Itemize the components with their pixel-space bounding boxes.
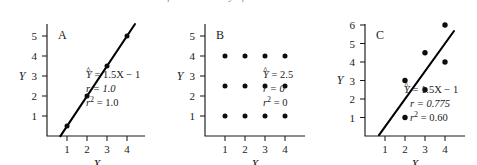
data-point <box>223 114 228 119</box>
panel-b-xtick-2: 2 <box>242 143 248 155</box>
data-point <box>223 54 228 59</box>
panel-a-x-axis-title: X <box>92 157 101 165</box>
panel-a: 1 2 3 4 5 1 2 3 4 Y X A <box>0 8 158 165</box>
panel-a-ytick-3: 3 <box>32 70 38 82</box>
panel-c-xtick-2: 2 <box>402 143 408 155</box>
panel-b-ytick-5: 5 <box>190 30 196 42</box>
panel-a-ytick-5: 5 <box>32 30 38 42</box>
panel-c: 1 2 3 4 5 6 1 2 3 4 Y X C <box>318 8 477 165</box>
data-point <box>125 34 130 39</box>
panel-a-letter: A <box>58 28 67 42</box>
data-point <box>402 115 407 120</box>
panel-c-xtick-1: 1 <box>382 143 388 155</box>
panel-b-r2-rhs: = 0 <box>271 97 287 108</box>
panel-b-ytick-2: 2 <box>190 90 196 102</box>
panel-c-y-axis-title: Y <box>337 73 345 87</box>
panel-a-ytick-1: 1 <box>32 110 38 122</box>
panel-b-equation-rhs: = 2.5 <box>269 69 293 80</box>
data-point <box>263 114 268 119</box>
panel-b-hat-accent: ^ <box>263 65 268 76</box>
panel-c-r2-value: r2 = 0.60 <box>410 110 448 123</box>
data-point <box>422 50 427 55</box>
panel-a-hat-accent: ^ <box>86 65 91 76</box>
panel-c-xtick-3: 3 <box>422 143 428 155</box>
data-point <box>243 114 248 119</box>
panel-a-regression-line <box>60 24 135 136</box>
panel-a-equation: Y = 1.5X − 1 <box>86 69 140 80</box>
panel-b-ytick-3: 3 <box>190 70 196 82</box>
panel-c-y-ticks <box>360 25 365 118</box>
panel-c-xtick-4: 4 <box>442 143 448 155</box>
regression-figure: 1 2 3 4 5 1 2 3 4 Y X A <box>0 0 477 165</box>
panel-c-ytick-5: 5 <box>350 38 356 50</box>
panel-c-ytick-2: 2 <box>350 93 356 105</box>
panel-b: 1 2 3 4 5 1 2 3 4 Y X B <box>158 8 318 165</box>
panel-b-plot: 1 2 3 4 5 1 2 3 4 Y X B <box>158 8 318 165</box>
panel-b-letter: B <box>216 28 224 42</box>
panel-a-ytick-2: 2 <box>32 90 38 102</box>
panel-b-x-ticks <box>225 136 285 141</box>
panel-c-plot: 1 2 3 4 5 6 1 2 3 4 Y X C <box>318 8 477 165</box>
panel-a-y-axis-title: Y <box>19 69 27 83</box>
panel-a-r-value: r = 1.0 <box>86 83 116 94</box>
panel-a-annotation: Y = 1.5X − 1 ^ r = 1.0 r2 = 1.0 <box>86 65 140 108</box>
panel-a-ytick-4: 4 <box>32 50 38 62</box>
panel-c-equation: Y = 1.5X − 1 <box>404 84 458 95</box>
panel-b-y-ticks <box>200 36 205 116</box>
panel-c-ytick-4: 4 <box>350 56 356 68</box>
data-point <box>263 54 268 59</box>
panel-a-r2-rhs: = 1.0 <box>94 97 118 108</box>
panel-b-y-axis-title: Y <box>177 69 185 83</box>
panel-a-r2-value: r2 = 1.0 <box>86 95 118 108</box>
panel-c-x-ticks <box>385 136 445 141</box>
data-point <box>283 54 288 59</box>
panel-b-xtick-3: 3 <box>262 143 268 155</box>
panel-c-letter: C <box>376 28 384 42</box>
data-point <box>65 124 70 129</box>
panel-b-r2-value: r2 = 0 <box>263 95 288 108</box>
panel-c-ytick-3: 3 <box>350 75 356 87</box>
data-point <box>442 22 447 27</box>
panel-c-ytick-6: 6 <box>350 19 356 31</box>
panel-a-y-ticks <box>42 36 47 116</box>
panel-b-ytick-4: 4 <box>190 50 196 62</box>
data-point <box>243 54 248 59</box>
data-point <box>243 84 248 89</box>
panel-b-x-axis-title: X <box>250 157 259 165</box>
panel-c-x-axis-title: X <box>410 157 419 165</box>
panel-a-plot: 1 2 3 4 5 1 2 3 4 Y X A <box>0 8 158 165</box>
panel-a-xtick-3: 3 <box>104 143 110 155</box>
panel-b-r-value: r = 0 <box>263 83 285 94</box>
panel-b-xtick-1: 1 <box>222 143 228 155</box>
panel-a-xtick-4: 4 <box>124 143 130 155</box>
data-point <box>442 59 447 64</box>
panel-a-x-ticks <box>67 136 127 141</box>
panel-c-equation-rhs: = 1.5X − 1 <box>410 84 458 95</box>
panel-c-ytick-1: 1 <box>350 112 356 124</box>
data-point <box>223 84 228 89</box>
data-point <box>105 64 110 69</box>
panel-b-xtick-4: 4 <box>282 143 288 155</box>
panel-b-annotation: Y = 2.5 ^ r = 0 r2 = 0 <box>263 65 293 108</box>
panel-b-ytick-1: 1 <box>190 110 196 122</box>
panel-a-equation-rhs: = 1.5X − 1 <box>92 69 140 80</box>
panel-a-xtick-2: 2 <box>84 143 90 155</box>
panel-c-r2-rhs: = 0.60 <box>418 112 448 123</box>
panel-a-xtick-1: 1 <box>64 143 70 155</box>
panel-c-r-value: r = 0.775 <box>410 98 450 109</box>
panel-c-annotation: Y = 1.5X − 1 ^ r = 0.775 r2 = 0.60 <box>404 80 458 123</box>
data-point <box>283 114 288 119</box>
panel-c-hat-accent: ^ <box>404 80 409 91</box>
